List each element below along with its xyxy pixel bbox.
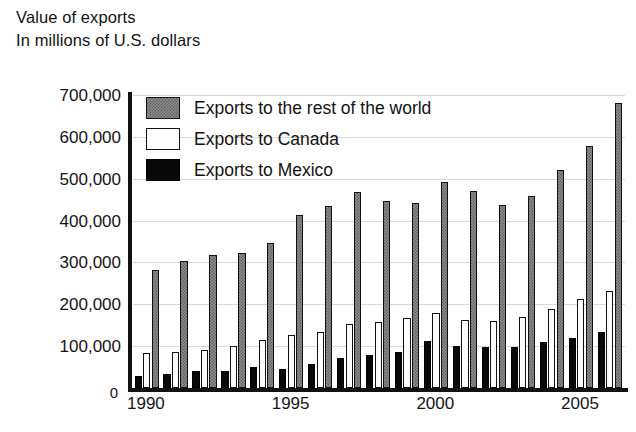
x-tick-label: 2005	[561, 394, 599, 414]
bar-world-1997[interactable]	[354, 192, 361, 388]
bar-canada-1990[interactable]	[143, 353, 150, 388]
bar-world-1996[interactable]	[325, 206, 332, 388]
bar-mexico-1995[interactable]	[279, 369, 286, 388]
legend-swatch-mexico-icon	[146, 159, 180, 181]
bar-world-2001[interactable]	[470, 191, 477, 388]
bar-canada-2004[interactable]	[548, 309, 555, 388]
bar-canada-1999[interactable]	[403, 318, 410, 388]
bar-mexico-1996[interactable]	[308, 364, 315, 388]
bar-canada-1992[interactable]	[201, 350, 208, 388]
legend-label-mexico: Exports to Mexico	[194, 160, 333, 180]
bar-canada-1998[interactable]	[375, 322, 382, 388]
bar-world-1990[interactable]	[152, 270, 159, 388]
legend-swatch-canada-icon	[146, 128, 180, 150]
bar-world-2000[interactable]	[441, 182, 448, 388]
y-tick-label: 400,000	[60, 213, 121, 230]
bar-mexico-1990[interactable]	[135, 376, 142, 388]
y-axis-tick-labels: 0100,000200,000300,000400,000500,000600,…	[0, 0, 126, 432]
y-tick-label: 100,000	[60, 338, 121, 355]
y-tick-label: 600,000	[60, 129, 121, 146]
bar-group	[509, 95, 538, 388]
bar-world-1991[interactable]	[180, 261, 187, 388]
bar-mexico-1992[interactable]	[192, 371, 199, 388]
legend: Exports to the rest of the world Exports…	[146, 92, 431, 185]
bar-canada-1996[interactable]	[317, 332, 324, 388]
legend-item-world[interactable]: Exports to the rest of the world	[146, 92, 431, 123]
bar-mexico-2005[interactable]	[569, 338, 576, 388]
bar-group	[451, 95, 480, 388]
legend-label-canada: Exports to Canada	[194, 129, 339, 149]
y-axis-line	[128, 92, 132, 391]
bar-world-2004[interactable]	[557, 170, 564, 388]
legend-item-mexico[interactable]: Exports to Mexico	[146, 154, 431, 185]
legend-swatch-world-icon	[146, 97, 180, 119]
legend-item-canada[interactable]: Exports to Canada	[146, 123, 431, 154]
x-tick-label: 2000	[416, 394, 454, 414]
bar-mexico-2001[interactable]	[453, 346, 460, 388]
bar-canada-2006[interactable]	[606, 291, 613, 388]
bar-group	[480, 95, 509, 388]
bar-world-1998[interactable]	[383, 201, 390, 388]
bar-mexico-2004[interactable]	[540, 342, 547, 388]
bar-mexico-2000[interactable]	[424, 341, 431, 388]
bar-mexico-2003[interactable]	[511, 347, 518, 388]
bar-world-2003[interactable]	[528, 196, 535, 388]
bar-mexico-1998[interactable]	[366, 355, 373, 388]
bar-mexico-2006[interactable]	[598, 332, 605, 388]
bar-world-2002[interactable]	[499, 205, 506, 388]
bar-canada-1993[interactable]	[230, 346, 237, 388]
x-axis-tick-labels: 1990199520002005	[0, 392, 636, 422]
y-tick-label: 500,000	[60, 171, 121, 188]
bar-mexico-1993[interactable]	[221, 371, 228, 388]
y-tick-label: 700,000	[60, 87, 121, 104]
bar-canada-2002[interactable]	[490, 321, 497, 388]
bar-world-1999[interactable]	[412, 203, 419, 388]
bar-canada-1991[interactable]	[172, 352, 179, 388]
bar-world-1995[interactable]	[296, 215, 303, 388]
bar-mexico-1997[interactable]	[337, 358, 344, 388]
bar-mexico-1994[interactable]	[250, 367, 257, 388]
x-tick-label: 1995	[272, 394, 310, 414]
bar-canada-1997[interactable]	[346, 324, 353, 388]
legend-label-world: Exports to the rest of the world	[194, 98, 431, 118]
bar-mexico-2002[interactable]	[482, 347, 489, 388]
bar-canada-2005[interactable]	[577, 299, 584, 388]
bar-canada-1994[interactable]	[259, 340, 266, 388]
bar-world-1993[interactable]	[238, 253, 245, 388]
bar-world-2005[interactable]	[586, 146, 593, 388]
y-tick-label: 300,000	[60, 254, 121, 271]
x-tick-label: 1990	[127, 394, 165, 414]
chart-figure: Value of exports In millions of U.S. dol…	[0, 0, 636, 432]
bar-world-1992[interactable]	[209, 255, 216, 388]
bar-group	[596, 95, 625, 388]
y-tick-label: 200,000	[60, 296, 121, 313]
bar-mexico-1999[interactable]	[395, 352, 402, 388]
bar-group	[567, 95, 596, 388]
bar-canada-2000[interactable]	[432, 313, 439, 388]
bar-group	[538, 95, 567, 388]
bar-world-2006[interactable]	[615, 103, 622, 388]
bar-world-1994[interactable]	[267, 243, 274, 388]
bar-canada-2001[interactable]	[461, 320, 468, 388]
bar-canada-1995[interactable]	[288, 335, 295, 388]
bar-mexico-1991[interactable]	[163, 374, 170, 388]
bar-canada-2003[interactable]	[519, 317, 526, 388]
